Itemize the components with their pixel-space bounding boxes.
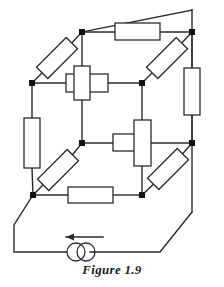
resistor-bottom-front: [68, 187, 113, 203]
wire-source-left: [14, 195, 72, 252]
resistor-right-vertical: [184, 68, 200, 115]
node-bot-front-right: [139, 192, 145, 198]
node-bot-front-left: [30, 192, 36, 198]
resistor-diag-bottom-right: [147, 148, 188, 189]
current-source-circle-left: [67, 243, 85, 261]
resistor-top-back: [115, 23, 160, 40]
resistor-midright-vertical: [134, 120, 151, 166]
wire-left-vert-b: [32, 168, 33, 195]
figure-container: Figure 1.9: [0, 0, 224, 287]
wire-source-right: [90, 212, 192, 252]
resistor-diag-top-right: [146, 37, 187, 78]
current-arrow: [66, 234, 103, 241]
node-bot-back-left: [79, 140, 85, 146]
current-arrow-head: [66, 234, 74, 241]
resistor-center-vertical: [74, 66, 90, 100]
node-top-front-right: [139, 80, 145, 86]
node-bot-back-right: [189, 140, 195, 146]
node-top-back-left: [79, 29, 85, 35]
resistor-diag-top-left: [36, 37, 77, 78]
node-top-back-right: [189, 29, 195, 35]
figure-caption: Figure 1.9: [0, 262, 224, 278]
resistor-diag-bottom-left: [37, 149, 78, 190]
source-loop-wires: [14, 10, 192, 252]
node-top-front-left: [29, 80, 35, 86]
circuit-diagram: [0, 0, 224, 287]
resistor-left-vertical: [24, 118, 40, 168]
